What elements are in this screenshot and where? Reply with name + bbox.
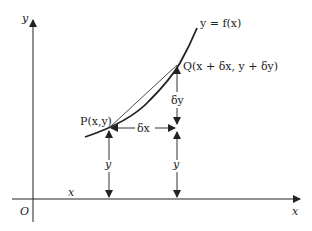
height-r-label: y (172, 158, 180, 171)
curve-label: y = f(x) (199, 17, 241, 30)
delta-x-label: δx (137, 122, 151, 135)
point-p-label: P(x,y) (80, 115, 112, 128)
chord-pq (110, 65, 177, 127)
diagram-canvas: y x O y = f(x) Q(x + δx, y + δy) P(x,y) … (0, 0, 312, 231)
point-q-label: Q(x + δx, y + δy) (183, 60, 278, 73)
delta-y-label: δy (171, 94, 185, 107)
y-axis-label: y (21, 12, 29, 25)
height-p-label: y (104, 158, 112, 171)
x-axis-label: x (292, 205, 299, 218)
origin-label: O (20, 205, 29, 218)
x-distance-label: x (68, 186, 75, 199)
